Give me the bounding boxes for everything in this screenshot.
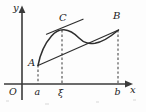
y-axis-label: y <box>12 2 19 13</box>
scan-speck <box>6 100 9 102</box>
point-label-c: C <box>59 12 67 23</box>
tick-label-xi: ξ <box>58 87 64 98</box>
y-axis-arrowhead <box>19 6 26 14</box>
origin-label: O <box>9 86 17 97</box>
point-label-a: A <box>27 57 35 68</box>
math-figure: y x O a ξ b A C B <box>0 0 146 112</box>
chord-line-ab <box>38 30 119 66</box>
scan-speck <box>45 103 49 105</box>
tick-label-a: a <box>35 86 41 97</box>
tick-label-b: b <box>115 86 121 97</box>
scan-speck <box>96 101 99 103</box>
scan-speck <box>133 99 136 101</box>
x-axis-label: x <box>130 84 136 95</box>
figure-canvas: y x O a ξ b A C B <box>0 0 146 112</box>
point-label-b: B <box>112 10 120 21</box>
